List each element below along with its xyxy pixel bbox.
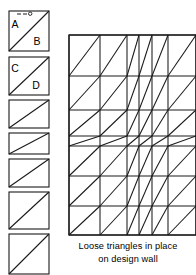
unit-letter-label: D	[32, 79, 40, 91]
triangle-unit[interactable]: AB	[9, 11, 49, 51]
unit-letter-label: B	[33, 35, 40, 47]
triangle-unit[interactable]	[9, 133, 49, 154]
quilt-diagram: ABCD	[0, 0, 196, 275]
figure-root: ABCD Loose triangles in place on design …	[0, 0, 196, 275]
triangle-unit[interactable]	[9, 192, 49, 229]
design-wall-grid[interactable]	[69, 35, 196, 235]
caption-line-1: Loose triangles in place	[60, 240, 196, 253]
figure-caption: Loose triangles in place on design wall	[60, 240, 196, 265]
triangle-unit[interactable]	[9, 234, 49, 274]
caption-line-2: on design wall	[60, 253, 196, 266]
wall-background	[69, 35, 196, 235]
pin-head	[29, 12, 32, 15]
triangle-unit[interactable]	[9, 100, 49, 128]
triangle-unit[interactable]: CD	[9, 57, 49, 95]
unit-letter-label: C	[11, 62, 19, 74]
triangle-unit[interactable]	[9, 159, 49, 187]
swatch-column: ABCD	[9, 11, 49, 274]
unit-letter-label: A	[11, 18, 18, 30]
